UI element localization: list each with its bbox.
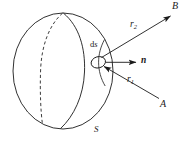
label-surface-element-ds: ds — [90, 40, 98, 49]
label-point-b: B — [172, 1, 178, 11]
label-vector-r2: r2 — [130, 20, 137, 30]
label-vector-r2-subscript: 2 — [134, 23, 137, 30]
physics-figure-sphere-flux: B A r2 r1 n ds S — [0, 0, 185, 147]
label-ds-s: s — [94, 39, 97, 49]
label-vector-r1: r1 — [127, 75, 134, 85]
element-seat-curve — [99, 40, 106, 87]
label-point-a: A — [160, 99, 166, 109]
meridian-back-dashed — [40, 13, 62, 123]
label-normal-n: n — [141, 56, 146, 66]
figure-drawing-canvas — [0, 0, 185, 147]
label-surface-s: S — [94, 125, 99, 134]
sphere-outline — [13, 13, 113, 129]
label-vector-r1-subscript: 1 — [131, 78, 134, 85]
meridian-front-solid — [61, 13, 85, 128]
